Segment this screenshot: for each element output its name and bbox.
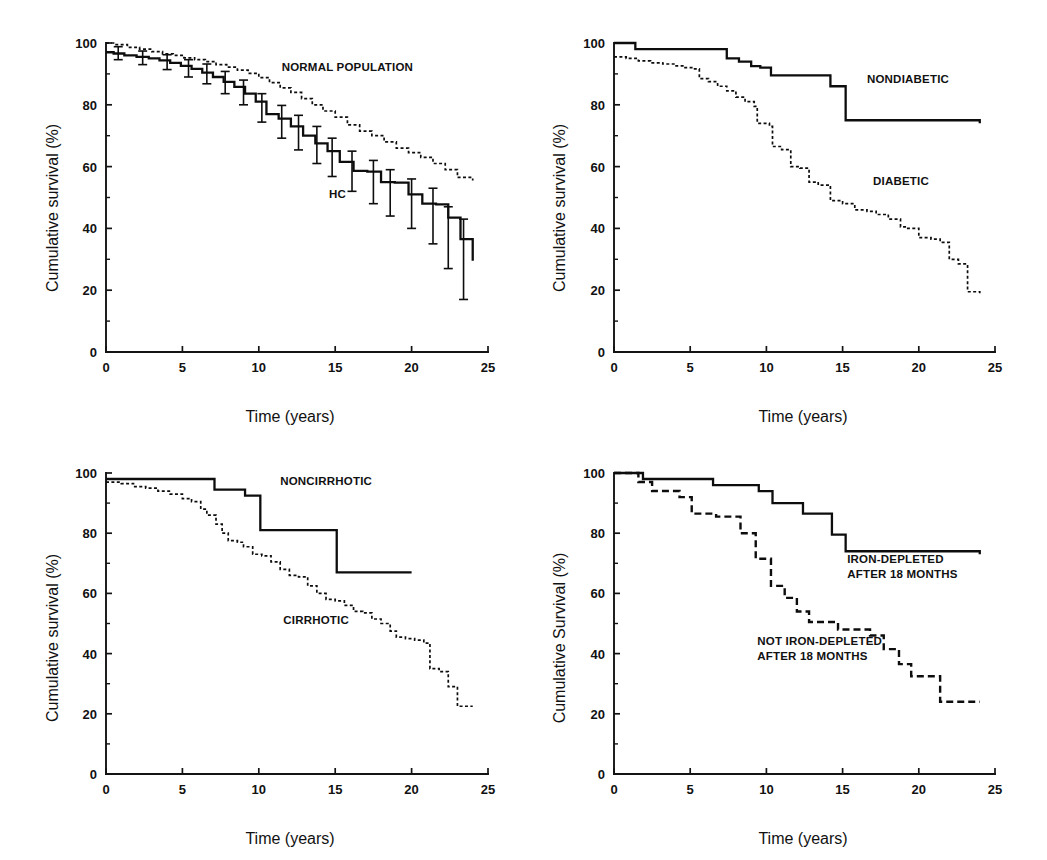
panel-a-ytick-4: 80 bbox=[83, 98, 97, 113]
panel-c-ylabel: Cumulative survival (%) bbox=[44, 554, 61, 722]
panel-a-ytick-1: 20 bbox=[83, 283, 97, 298]
panel-a-annotations: NORMAL POPULATIONHC bbox=[282, 61, 413, 200]
panel-c-ytick-3: 60 bbox=[83, 586, 97, 601]
panel-c-curve-1 bbox=[106, 482, 473, 706]
panel-b-annotation-1: DIABETIC bbox=[873, 175, 929, 187]
panel-b-ylabel: Cumulative survival (%) bbox=[551, 124, 568, 292]
panel-b-axes: 0510152025020406080100 bbox=[583, 36, 1002, 375]
panel-a-errorbar-8 bbox=[277, 105, 286, 138]
panel-d-annotation-2: NOT IRON-DEPLETED bbox=[757, 635, 882, 647]
panel-d-annotations: IRON-DEPLETEDAFTER 18 MONTHSNOT IRON-DEP… bbox=[757, 553, 957, 661]
panel-a-errorbar-14 bbox=[386, 170, 395, 216]
panel-d-xlabel: Time (years) bbox=[758, 830, 847, 847]
panel-b-ytick-5: 100 bbox=[583, 36, 605, 51]
panel-a-errorbar-4 bbox=[202, 64, 211, 84]
panel-a-errorbar-6 bbox=[239, 80, 248, 105]
panel-d-ytick-1: 20 bbox=[591, 707, 605, 722]
panel-d-ytick-5: 100 bbox=[583, 466, 605, 481]
panel-normal-population-vs-hc: 0510152025020406080100 NORMAL POPULATION… bbox=[38, 18, 508, 438]
panel-c-annotations: NONCIRRHOTICCIRRHOTIC bbox=[280, 475, 372, 625]
panel-c-ytick-2: 40 bbox=[83, 647, 97, 662]
panel-c-xtick-5: 25 bbox=[481, 782, 495, 797]
panel-b-svg: 0510152025020406080100 NONDIABETICDIABET… bbox=[545, 18, 1035, 438]
panel-c-svg: 0510152025020406080100 NONCIRRHOTICCIRRH… bbox=[38, 458, 508, 858]
panel-a-curve-1 bbox=[106, 52, 473, 261]
panel-b-ytick-1: 20 bbox=[591, 283, 605, 298]
panel-d-xtick-5: 25 bbox=[988, 782, 1002, 797]
panel-c-ytick-4: 80 bbox=[83, 526, 97, 541]
panel-d-annotation-1: AFTER 18 MONTHS bbox=[847, 568, 957, 580]
panel-b-xlabel: Time (years) bbox=[758, 408, 847, 425]
panel-c-ytick-5: 100 bbox=[75, 466, 97, 481]
panel-b-ytick-4: 80 bbox=[591, 98, 605, 113]
panel-a-errorbar-13 bbox=[369, 160, 378, 203]
panel-a-xlabel: Time (years) bbox=[245, 408, 334, 425]
panel-c-xtick-2: 10 bbox=[252, 782, 266, 797]
panel-d-xtick-1: 5 bbox=[687, 782, 694, 797]
panel-a-svg: 0510152025020406080100 NORMAL POPULATION… bbox=[38, 18, 508, 438]
panel-c-annotation-0: NONCIRRHOTIC bbox=[280, 475, 372, 487]
panel-c-series bbox=[106, 479, 473, 706]
panel-d-curve-0 bbox=[614, 473, 980, 554]
panel-d-annotation-0: IRON-DEPLETED bbox=[847, 553, 944, 565]
panel-b-ytick-3: 60 bbox=[591, 160, 605, 175]
panel-c-xtick-1: 5 bbox=[179, 782, 186, 797]
panel-c-xtick-3: 15 bbox=[328, 782, 342, 797]
panel-b-xtick-1: 5 bbox=[687, 360, 694, 375]
panel-d-curve-1 bbox=[614, 473, 980, 702]
panel-c-xtick-0: 0 bbox=[102, 782, 109, 797]
panel-d-ylabel: Cumulative Survival (%) bbox=[551, 553, 568, 724]
panel-b-ytick-2: 40 bbox=[591, 221, 605, 236]
panel-nondiabetic-vs-diabetic: 0510152025020406080100 NONDIABETICDIABET… bbox=[545, 18, 1035, 438]
panel-c-xtick-4: 20 bbox=[404, 782, 418, 797]
panel-b-xtick-5: 25 bbox=[988, 360, 1002, 375]
panel-b-annotation-0: NONDIABETIC bbox=[867, 73, 949, 85]
panel-a-errorbar-7 bbox=[257, 94, 266, 122]
panel-a-ytick-5: 100 bbox=[75, 36, 97, 51]
panel-a-annotation-0: NORMAL POPULATION bbox=[282, 61, 413, 73]
panel-a-errorbar-16 bbox=[428, 188, 437, 244]
panel-a-xtick-0: 0 bbox=[102, 360, 109, 375]
panel-b-xtick-0: 0 bbox=[610, 360, 617, 375]
panel-d-xtick-4: 20 bbox=[912, 782, 926, 797]
panel-d-ytick-0: 0 bbox=[598, 767, 605, 782]
panel-c-annotation-1: CIRRHOTIC bbox=[283, 614, 349, 626]
panel-iron-depleted-vs-not: 0510152025020406080100 IRON-DEPLETEDAFTE… bbox=[545, 458, 1035, 858]
panel-c-axes: 0510152025020406080100 bbox=[75, 466, 495, 797]
panel-d-ytick-2: 40 bbox=[591, 647, 605, 662]
panel-a-xtick-2: 10 bbox=[252, 360, 266, 375]
panel-d-xtick-0: 0 bbox=[610, 782, 617, 797]
panel-b-xtick-2: 10 bbox=[759, 360, 773, 375]
panel-a-annotation-1: HC bbox=[329, 188, 346, 200]
panel-c-ytick-0: 0 bbox=[90, 767, 97, 782]
panel-a-xtick-1: 5 bbox=[179, 360, 186, 375]
panel-d-annotation-3: AFTER 18 MONTHS bbox=[757, 650, 867, 662]
panel-a-ytick-3: 60 bbox=[83, 160, 97, 175]
panel-noncirrhotic-vs-cirrhotic: 0510152025020406080100 NONCIRRHOTICCIRRH… bbox=[38, 458, 508, 858]
panel-b-xtick-4: 20 bbox=[912, 360, 926, 375]
panel-d-xtick-2: 10 bbox=[759, 782, 773, 797]
panel-d-ytick-3: 60 bbox=[591, 586, 605, 601]
panel-c-curve-0 bbox=[106, 479, 412, 572]
panel-a-series bbox=[106, 43, 473, 299]
panel-d-xtick-3: 15 bbox=[835, 782, 849, 797]
panel-a-xtick-5: 25 bbox=[481, 360, 495, 375]
panel-b-xtick-3: 15 bbox=[835, 360, 849, 375]
panel-a-xtick-3: 15 bbox=[328, 360, 342, 375]
panel-a-errorbar-10 bbox=[312, 126, 321, 163]
panel-b-ytick-0: 0 bbox=[598, 345, 605, 360]
panel-a-errorbar-11 bbox=[328, 138, 337, 176]
panel-d-axes: 0510152025020406080100 bbox=[583, 466, 1002, 797]
panel-d-ytick-4: 80 bbox=[591, 526, 605, 541]
panel-d-svg: 0510152025020406080100 IRON-DEPLETEDAFTE… bbox=[545, 458, 1035, 858]
figure-canvas: 0510152025020406080100 NORMAL POPULATION… bbox=[0, 0, 1047, 860]
panel-a-errorbar-17 bbox=[444, 207, 453, 269]
panel-c-ytick-1: 20 bbox=[83, 707, 97, 722]
panel-d-series bbox=[614, 473, 980, 702]
panel-c-xlabel: Time (years) bbox=[245, 830, 334, 847]
panel-b-annotations: NONDIABETICDIABETIC bbox=[867, 73, 949, 187]
panel-a-xtick-4: 20 bbox=[404, 360, 418, 375]
panel-a-ytick-2: 40 bbox=[83, 221, 97, 236]
panel-a-errorbar-9 bbox=[294, 115, 303, 150]
panel-a-ylabel: Cumulative survival (%) bbox=[44, 124, 61, 292]
